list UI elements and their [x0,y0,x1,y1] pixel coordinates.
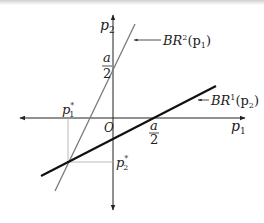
x-intercept-denominator: 2 [150,132,158,147]
p2-star-label: p*2 [116,154,128,172]
y-intercept-numerator: a [103,50,111,65]
br1-label: BR1(p2) [210,93,259,110]
br2-label: BR2(p1) [162,33,211,50]
origin-label: O [104,121,114,135]
y-intercept-denominator: 2 [103,66,111,81]
best-response-diagram: p2 p1 O a 2 a 2 BR2(p1) BR1(p2) p*1 p*2 [0,0,264,223]
p1-axis-label: p1 [231,118,246,136]
p2-axis-label: p2 [100,17,115,35]
p1-star-label: p*1 [62,101,74,119]
br1-line [41,86,216,176]
x-intercept-numerator: a [150,118,158,133]
